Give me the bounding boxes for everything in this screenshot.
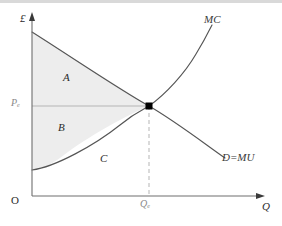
diagram-canvas: £ Q O Pe Qe MC D=MU A B C	[0, 0, 282, 226]
region-b-shape	[32, 106, 149, 170]
region-c-label: C	[100, 152, 107, 164]
demand-curve-label: D=MU	[222, 151, 254, 163]
origin-label: O	[11, 194, 19, 206]
price-tick-label: Pe	[11, 97, 20, 108]
x-axis-label: Q	[262, 200, 270, 212]
quantity-tick-label: Qe	[140, 198, 150, 209]
equilibrium-point-marker	[146, 103, 153, 110]
price-tick-subscript: e	[17, 101, 20, 108]
mc-curve-label: MC	[204, 13, 221, 25]
quantity-tick-subscript: e	[147, 202, 150, 209]
y-axis-arrow-icon	[29, 12, 35, 21]
region-a-label: A	[63, 71, 70, 83]
region-b-label: B	[58, 121, 65, 133]
y-axis-label: £	[20, 12, 26, 24]
x-axis-arrow-icon	[256, 193, 265, 199]
diagram-svg	[0, 0, 282, 226]
